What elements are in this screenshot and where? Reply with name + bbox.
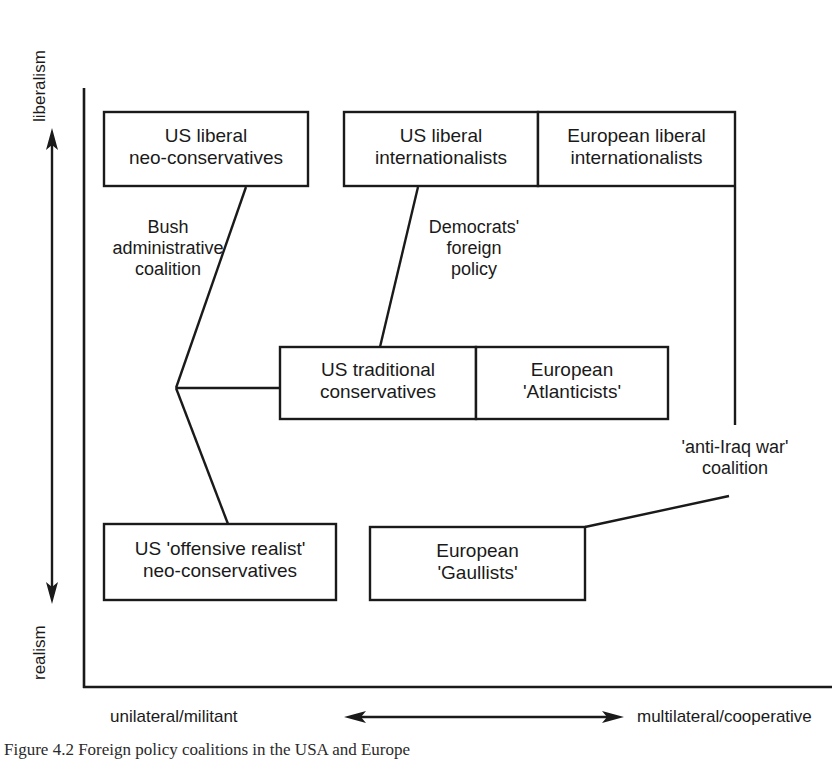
axis-label-liberalism: liberalism (30, 50, 50, 122)
axis-label-unilateral-militant: unilateral/militant (110, 707, 238, 727)
figure-caption: Figure 4.2 Foreign policy coalitions in … (4, 740, 410, 759)
box-label-us-liberal-neo-conservatives: US liberal neo-conservatives (104, 125, 308, 170)
connector-label-anti-iraq-war-coalition: 'anti-Iraq war' coalition (645, 437, 825, 479)
box-outlines (104, 112, 735, 600)
box-label-european-gaullists: European 'Gaullists' (370, 540, 585, 585)
connector-bush-to-offensive-realists (176, 388, 228, 524)
axis-label-multilateral-cooperative: multilateral/cooperative (637, 707, 812, 727)
box-label-european-liberal-internationalists: European liberal internationalists (538, 125, 735, 170)
horizontal-axis-arrow (344, 711, 624, 723)
box-label-us-traditional-conservatives: US traditional conservatives (280, 359, 476, 404)
vertical-axis-arrow (46, 128, 58, 604)
connector-label-bush-administrative-coalition: Bush administrative coalition (78, 217, 258, 281)
figure-page: US liberal neo-conservatives US liberal … (0, 0, 835, 759)
box-label-us-liberal-internationalists: US liberal internationalists (344, 125, 538, 170)
connector-anti-iraq-to-gaullists (585, 496, 729, 527)
connector-label-democrats-foreign-policy: Democrats' foreign policy (404, 217, 544, 281)
axis-label-realism: realism (30, 625, 50, 680)
box-label-european-atlanticists: European 'Atlanticists' (476, 359, 668, 404)
box-label-us-offensive-realist-neo-conservatives: US 'offensive realist' neo-conservatives (104, 538, 336, 583)
